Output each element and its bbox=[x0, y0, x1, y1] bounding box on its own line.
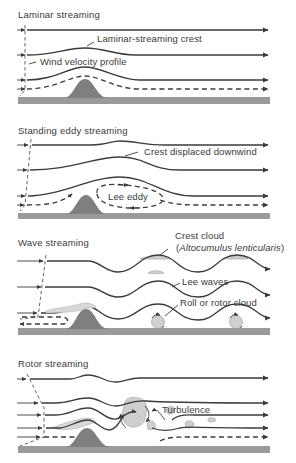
panel-title: Wave streaming bbox=[18, 237, 89, 248]
wind-velocity-profile-line bbox=[20, 374, 44, 446]
ground bbox=[18, 97, 270, 104]
streamline bbox=[30, 375, 268, 382]
crest-label: Laminar-streaming crest bbox=[97, 33, 202, 44]
streamline bbox=[45, 281, 270, 297]
inflow-arrows bbox=[17, 379, 42, 437]
streamline-dashed bbox=[27, 76, 268, 89]
streamline bbox=[172, 415, 268, 420]
crest-cloud-small bbox=[148, 271, 164, 274]
rotor-cloud bbox=[230, 315, 243, 330]
panel-wave-streaming: Wave streaming Crest cloud (Altocumulus … bbox=[17, 230, 284, 335]
panel-title: Rotor streaming bbox=[18, 358, 89, 369]
crest-displaced-label: Crest displaced downwind bbox=[144, 146, 257, 157]
mountain bbox=[66, 309, 108, 329]
streamline bbox=[152, 427, 268, 430]
panel-title: Laminar streaming bbox=[18, 9, 100, 20]
wind-velocity-profile-line bbox=[20, 25, 25, 96]
lee-eddy-label: Lee eddy bbox=[108, 191, 148, 202]
mountain bbox=[66, 195, 106, 214]
panel-standing-eddy-streaming: Standing eddy streaming Crest displaced … bbox=[17, 125, 270, 219]
wind-velocity-profile-line bbox=[20, 139, 31, 211]
panel-title: Standing eddy streaming bbox=[18, 125, 128, 136]
streamline bbox=[42, 398, 268, 406]
panel-rotor-streaming: Rotor streaming Turbulence bbox=[17, 358, 270, 453]
crest-cloud-latin-label: (Altocumulus lenticularis) bbox=[176, 242, 284, 253]
mountain bbox=[64, 79, 108, 98]
streamline bbox=[32, 141, 268, 145]
inflow-arrows bbox=[17, 30, 25, 89]
wind-velocity-profile-label: Wind velocity profile bbox=[40, 56, 127, 67]
turbulence-label: Turbulence bbox=[162, 404, 210, 415]
ground bbox=[18, 328, 270, 335]
streamline bbox=[28, 177, 268, 196]
crest-leader bbox=[87, 42, 94, 46]
rotor-cloud bbox=[152, 315, 165, 330]
airflow-over-mountain-diagram: Laminar streaming Laminar-streaming cres… bbox=[0, 0, 296, 463]
ground bbox=[18, 446, 270, 453]
streamline bbox=[27, 67, 268, 80]
crest-cloud-leader bbox=[160, 249, 168, 255]
turbulence-cloud bbox=[208, 418, 216, 422]
crest-leader bbox=[125, 152, 138, 156]
profile-leader bbox=[29, 62, 36, 64]
ground bbox=[18, 213, 270, 219]
streamline-dashed bbox=[160, 437, 268, 441]
panel-laminar-streaming: Laminar streaming Laminar-streaming cres… bbox=[17, 9, 270, 104]
streamline bbox=[30, 157, 268, 170]
rotor-cloud-label: Roll or rotor cloud bbox=[180, 297, 257, 308]
streamline bbox=[27, 48, 268, 55]
streamline-dashed bbox=[160, 200, 268, 205]
lee-waves-label: Lee waves bbox=[182, 276, 228, 287]
inflow-arrows bbox=[17, 145, 28, 205]
crest-cloud-label: Crest cloud bbox=[175, 230, 224, 241]
lee-waves-leader bbox=[172, 283, 180, 287]
